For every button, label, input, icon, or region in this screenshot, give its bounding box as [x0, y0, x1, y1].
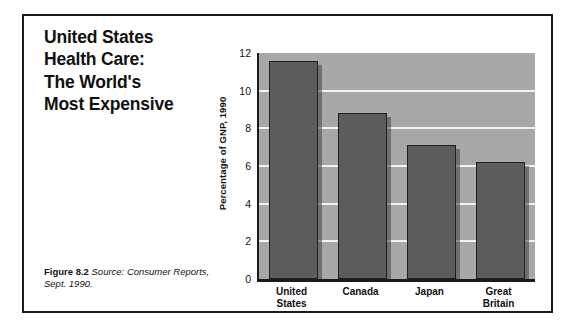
x-axis-label-united-states: UnitedStates	[257, 286, 326, 310]
x-axis-category-labels: UnitedStatesCanadaJapanGreatBritain	[257, 286, 535, 320]
bar-great-britain[interactable]	[476, 162, 526, 279]
x-axis-label-canada: Canada	[326, 286, 395, 298]
x-axis-label-line: Great	[464, 286, 533, 298]
y-axis-tick-label: 4	[245, 198, 251, 210]
chart-title: United States Health Care: The World's M…	[44, 26, 219, 116]
y-axis-tick-label: 12	[239, 47, 251, 59]
x-axis-label-line: States	[257, 298, 326, 310]
x-axis-label-line: Britain	[464, 298, 533, 310]
plot-area	[257, 53, 535, 282]
y-axis-tick-label: 6	[245, 160, 251, 172]
chart-title-line-2: Health Care:	[44, 48, 219, 70]
x-axis-label-japan: Japan	[395, 286, 464, 298]
x-axis-label-line: Canada	[326, 286, 395, 298]
x-axis-label-line: Japan	[395, 286, 464, 298]
y-axis-title: Percentage of GNP, 1990	[216, 24, 230, 282]
chart-title-line-1: United States	[44, 26, 219, 48]
bar-united-states[interactable]	[269, 61, 319, 279]
y-axis-tick-label: 2	[245, 235, 251, 247]
figure-frame: United States Health Care: The World's M…	[22, 14, 553, 313]
figure-caption: Figure 8.2 Source: Consumer Reports, Sep…	[44, 266, 216, 291]
x-axis-label-great-britain: GreatBritain	[464, 286, 533, 310]
y-axis-tick-label: 0	[245, 273, 251, 285]
y-axis-title-text: Percentage of GNP, 1990	[218, 96, 229, 210]
bar-japan[interactable]	[407, 145, 457, 279]
x-axis-label-line: United	[257, 286, 326, 298]
chart-title-line-4: Most Expensive	[44, 93, 219, 115]
figure-left-column: United States Health Care: The World's M…	[44, 26, 219, 305]
bar-canada[interactable]	[338, 113, 388, 279]
chart-title-line-3: The World's	[44, 71, 219, 93]
y-axis-tick-label: 10	[239, 85, 251, 97]
y-axis-tick-labels: 024681012	[230, 24, 254, 282]
y-axis-tick-label: 8	[245, 122, 251, 134]
figure-caption-label: Figure 8.2	[44, 266, 89, 277]
chart-block: Percentage of GNP, 1990 024681012 United…	[202, 24, 547, 307]
